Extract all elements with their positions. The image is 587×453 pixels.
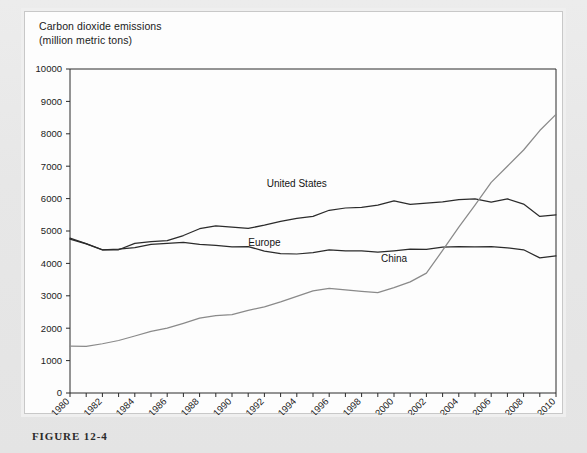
x-tick-label: 2006 xyxy=(470,396,493,415)
y-tick-label: 3000 xyxy=(41,290,62,301)
y-tick-label: 7000 xyxy=(41,161,62,172)
series-label-united-states: United States xyxy=(267,178,327,189)
x-tick-label: 1980 xyxy=(49,396,72,415)
y-axis-ticks: 0100020003000400050006000700080009000100… xyxy=(36,63,70,398)
x-tick-label: 1988 xyxy=(178,396,201,415)
x-tick-label: 2010 xyxy=(535,396,558,415)
plot-area: 0100020003000400050006000700080009000100… xyxy=(25,12,564,415)
axis-lines xyxy=(70,69,556,393)
y-tick-label: 9000 xyxy=(41,96,62,107)
y-tick-label: 5000 xyxy=(41,225,62,236)
x-tick-label: 1990 xyxy=(211,396,234,415)
figure-card: Carbon dioxide emissions (million metric… xyxy=(24,11,563,414)
series-line-united-states xyxy=(70,199,556,250)
y-tick-label: 8000 xyxy=(41,128,62,139)
x-tick-label: 2000 xyxy=(373,396,396,415)
x-tick-label: 2002 xyxy=(405,396,428,415)
y-tick-label: 6000 xyxy=(41,193,62,204)
series-annotations: United StatesEuropeChina xyxy=(248,178,407,264)
x-tick-label: 1986 xyxy=(146,396,169,415)
y-tick-label: 4000 xyxy=(41,258,62,269)
x-tick-label: 2008 xyxy=(502,396,525,415)
series-line-europe xyxy=(70,238,556,258)
x-tick-label: 1992 xyxy=(243,396,266,415)
x-tick-label: 1984 xyxy=(113,396,136,415)
x-tick-label: 1994 xyxy=(275,396,298,415)
y-tick-label: 10000 xyxy=(36,63,62,74)
page-background: Carbon dioxide emissions (million metric… xyxy=(0,0,587,453)
x-axis-ticks: 1980198219841986198819901992199419961998… xyxy=(49,393,558,415)
figure-caption: FIGURE 12-4 xyxy=(32,430,108,442)
series-lines xyxy=(70,114,556,346)
x-tick-label: 1982 xyxy=(81,396,104,415)
x-tick-label: 1996 xyxy=(308,396,331,415)
series-line-china xyxy=(70,114,556,346)
x-tick-label: 1998 xyxy=(340,396,363,415)
line-chart: 0100020003000400050006000700080009000100… xyxy=(25,12,564,415)
y-tick-label: 2000 xyxy=(41,323,62,334)
series-label-europe: Europe xyxy=(248,237,281,248)
x-tick-label: 2004 xyxy=(437,396,460,415)
y-tick-label: 1000 xyxy=(41,355,62,366)
series-label-china: China xyxy=(381,253,408,264)
